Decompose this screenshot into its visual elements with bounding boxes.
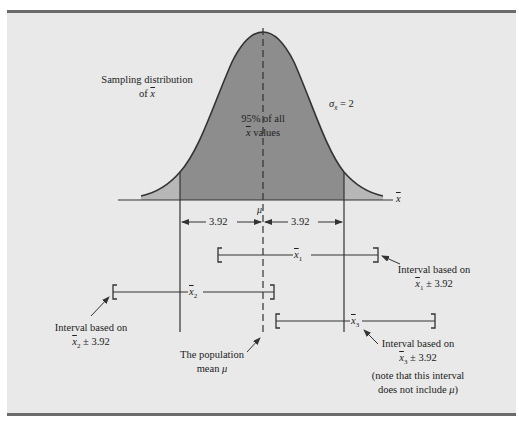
caption-line1: Interval based on: [47, 321, 135, 335]
sigma-label: σx̄ = 2: [329, 97, 354, 115]
caption-line1: Interval based on: [366, 337, 470, 351]
caption-line2: x2 ± 3.92: [47, 335, 135, 353]
curve-label: Sampling distribution of x: [92, 73, 202, 101]
caption-line2: x3 ± 3.92: [366, 351, 470, 369]
interval-2-mean-label: x2: [189, 285, 197, 303]
xbar-symbol: x: [150, 88, 155, 99]
right-margin-label: 3.92: [290, 215, 310, 229]
left-margin-label: 3.92: [208, 215, 228, 229]
caption-suffix: ± 3.92: [423, 278, 452, 289]
population-mean-line1: The population: [172, 348, 252, 362]
center-label-line1: 95% of all: [226, 112, 300, 126]
caption-line4: does not include μ): [366, 383, 470, 397]
right-tail-area: [344, 172, 383, 200]
mu-symbol: μ: [222, 363, 227, 374]
caption-prefix: does not include: [378, 384, 449, 395]
left-tail-area: [141, 172, 180, 200]
caption-suffix: ): [455, 384, 459, 395]
caption-line3: (note that this interval: [366, 369, 470, 383]
interval-2-caption: Interval based on x2 ± 3.92: [47, 321, 135, 353]
mu-axis-label: μ: [257, 203, 262, 217]
caption-line1: Interval based on: [390, 263, 478, 277]
interval-2-pointer: [91, 297, 109, 316]
subscript: 1: [299, 255, 303, 263]
population-mean-line2: mean μ: [172, 362, 252, 376]
caption-suffix: ± 3.92: [80, 336, 109, 347]
interval-3-mean-label: x3: [351, 314, 359, 332]
subscript: 3: [356, 321, 360, 329]
population-mean-label: The population mean μ: [172, 348, 252, 376]
interval-1-caption: Interval based on x1 ± 3.92: [390, 263, 478, 295]
center-label-suffix: values: [251, 127, 280, 138]
curve-label-prefix: of: [139, 88, 150, 99]
caption-line2: x1 ± 3.92: [390, 277, 478, 295]
sigma-value: = 2: [337, 98, 353, 109]
population-mean-prefix: mean: [197, 363, 222, 374]
curve-label-line1: Sampling distribution: [92, 73, 202, 87]
center-label-line2: x values: [226, 126, 300, 140]
subscript: 2: [194, 292, 198, 300]
center-label: 95% of all x values: [226, 112, 300, 140]
interval-1-mean-label: x1: [294, 248, 302, 266]
interval-3-caption: Interval based on x3 ± 3.92 (note that t…: [366, 337, 470, 397]
caption-suffix: ± 3.92: [407, 352, 436, 363]
curve-label-line2: of x: [92, 87, 202, 101]
axis-label: x: [396, 192, 401, 206]
